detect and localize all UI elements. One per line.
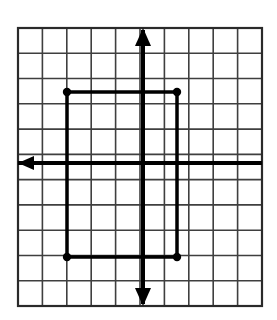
vertex-dot-top-right [173,88,181,96]
vertex-dot-top-left [63,88,71,96]
coordinate-plot [0,0,277,320]
plot-background [0,0,277,320]
vertex-dot-bottom-left [63,253,71,261]
vertex-dot-bottom-right [173,253,181,261]
figure-root: x = y, y = 33 [0,0,277,320]
